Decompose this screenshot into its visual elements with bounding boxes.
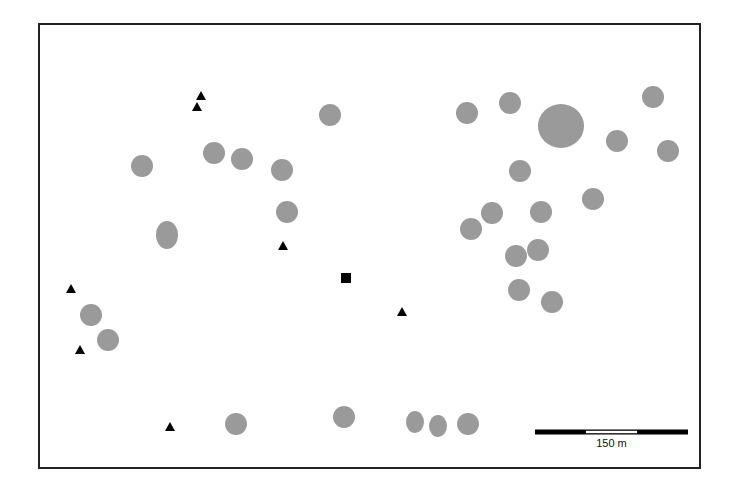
site-circle — [333, 406, 355, 428]
scale-bar: 150 m — [535, 430, 688, 450]
triangle-marker — [192, 102, 202, 111]
site-circle — [582, 188, 604, 210]
site-circle — [97, 329, 119, 351]
triangle-markers — [66, 91, 407, 431]
site-circle — [131, 155, 153, 177]
square-marker — [341, 273, 351, 283]
site-circle — [406, 411, 424, 433]
site-circles — [80, 86, 679, 437]
site-circle — [276, 201, 298, 223]
site-circle — [203, 142, 225, 164]
site-circle — [538, 104, 584, 148]
site-circle — [319, 104, 341, 126]
site-circle — [80, 304, 102, 326]
site-circle — [429, 415, 447, 437]
scale-bar-label: 150 m — [596, 437, 627, 449]
site-circle — [156, 221, 178, 249]
site-circle — [541, 291, 563, 313]
site-circle — [606, 130, 628, 152]
site-circle — [231, 148, 253, 170]
site-circle — [456, 102, 478, 124]
site-circle — [508, 279, 530, 301]
triangle-marker — [75, 345, 85, 354]
site-circle — [499, 92, 521, 114]
triangle-marker — [165, 422, 175, 431]
site-circle — [642, 86, 664, 108]
scale-bar-middle-segment — [586, 431, 637, 433]
site-circle — [225, 413, 247, 435]
site-circle — [530, 201, 552, 223]
site-map: 150 m — [0, 0, 733, 495]
site-circle — [657, 140, 679, 162]
site-circle — [457, 413, 479, 435]
triangle-marker — [278, 241, 288, 250]
site-circle — [271, 159, 293, 181]
site-circle — [460, 218, 482, 240]
site-circle — [505, 245, 527, 267]
triangle-marker — [66, 284, 76, 293]
map-frame — [39, 24, 700, 468]
triangle-marker — [397, 307, 407, 316]
triangle-marker — [196, 91, 206, 100]
site-circle — [481, 202, 503, 224]
site-circle — [509, 160, 531, 182]
site-circle — [527, 239, 549, 261]
